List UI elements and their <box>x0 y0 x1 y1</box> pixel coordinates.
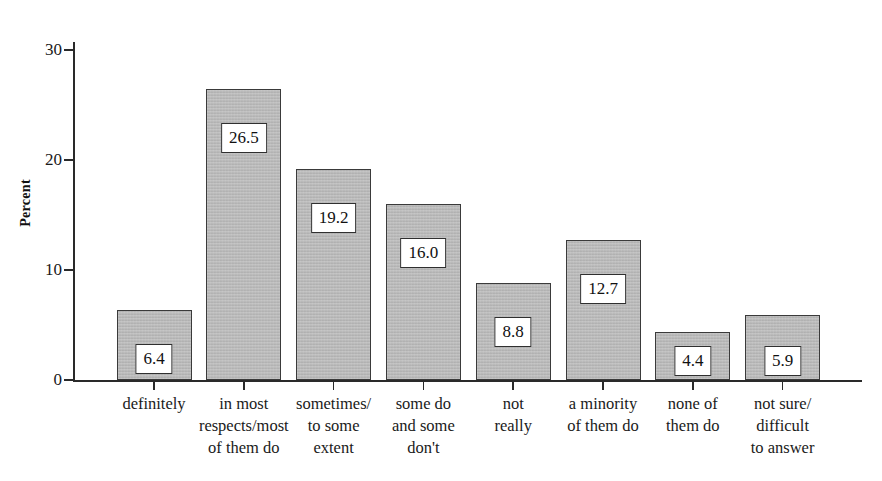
bar-value-label: 16.0 <box>401 238 447 268</box>
x-axis-tick <box>423 381 425 390</box>
y-axis-tick <box>64 49 74 51</box>
bar-value-label: 19.2 <box>311 203 357 233</box>
x-axis-tick <box>602 381 604 390</box>
x-axis-category-label: not sure/ difficult to answer <box>727 393 839 458</box>
y-axis-tick-label: 0 <box>20 370 62 390</box>
bar <box>566 240 641 380</box>
bar <box>296 169 371 380</box>
x-axis-tick <box>692 381 694 390</box>
bar <box>386 204 461 380</box>
y-axis-line <box>73 42 75 381</box>
bar-value-label: 12.7 <box>580 274 626 304</box>
y-axis-tick-label: 30 <box>20 40 62 60</box>
bar-value-label: 5.9 <box>764 346 801 376</box>
x-axis-tick <box>153 381 155 390</box>
y-axis-tick <box>64 159 74 161</box>
y-axis-tick-label: 20 <box>20 150 62 170</box>
x-axis-tick <box>782 381 784 390</box>
x-axis-tick <box>512 381 514 390</box>
bar-value-label: 6.4 <box>135 344 172 374</box>
bar-value-label: 8.8 <box>495 317 532 347</box>
x-axis-tick <box>333 381 335 390</box>
y-axis-tick <box>64 379 74 381</box>
x-axis-tick <box>243 381 245 390</box>
bar-value-label: 26.5 <box>221 123 267 153</box>
y-axis-tick <box>64 269 74 271</box>
y-axis-tick-label: 10 <box>20 260 62 280</box>
x-axis-line <box>73 380 862 382</box>
bar-value-label: 4.4 <box>674 346 711 376</box>
bar-chart: Percent 0102030 6.426.519.216.08.812.74.… <box>0 0 882 481</box>
